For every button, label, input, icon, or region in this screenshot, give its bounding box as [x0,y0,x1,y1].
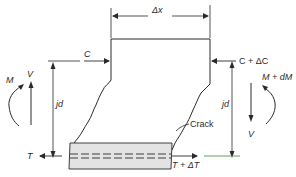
tension-right-label: T + ΔT [172,160,201,170]
moment-right-label: M + dM [262,72,293,82]
compression-left: C [48,49,109,61]
shear-left: V [27,69,34,125]
crack-callout: Crack [176,119,214,131]
lever-arm-left-label: jd [55,99,64,109]
right-crack [172,39,210,150]
crack-label: Crack [190,119,214,129]
tension-left: T [27,151,62,161]
moment-left-label: M [6,75,14,85]
lever-arm-right-label: jd [221,99,230,109]
moment-left: M [6,75,24,126]
tension-right: T + ΔT [172,156,240,170]
compression-left-label: C [84,49,91,59]
lever-arm-left: jd [51,62,64,158]
beam-free-body-diagram: Δx C C + ΔC jd jd [0,0,296,177]
tension-left-label: T [27,151,34,161]
compression-right-label: C + ΔC [239,56,269,66]
left-crack [70,39,111,150]
shear-right: V [248,83,255,139]
lever-arm-right: jd [221,61,235,158]
width-label: Δx [151,5,163,15]
shear-right-label: V [248,129,255,139]
shear-left-label: V [27,69,34,79]
reinforcement-zone [69,143,172,169]
width-dimension: Δx [111,5,210,38]
compression-right: C + ΔC [212,56,269,66]
moment-right: M + dM [262,72,293,124]
